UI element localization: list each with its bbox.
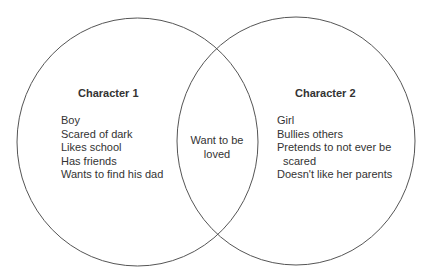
left-item: Wants to find his dad <box>61 168 163 182</box>
left-list: Boy Scared of dark Likes school Has frie… <box>61 114 163 182</box>
right-item: Girl <box>277 114 392 128</box>
right-item: Doesn't like her parents <box>277 168 392 182</box>
right-title: Character 2 <box>295 87 356 101</box>
left-item: Likes school <box>61 141 163 155</box>
overlap-text: Want to be loved <box>187 134 247 161</box>
left-item: Scared of dark <box>61 128 163 142</box>
left-item: Has friends <box>61 155 163 169</box>
right-item: Bullies others <box>277 128 392 142</box>
right-item: Pretends to not ever be <box>277 141 392 155</box>
left-item: Boy <box>61 114 163 128</box>
left-title: Character 1 <box>78 87 139 101</box>
right-item: scared <box>277 155 392 169</box>
right-list: Girl Bullies others Pretends to not ever… <box>277 114 392 182</box>
overlap-line: Want to be <box>187 134 247 148</box>
overlap-line: loved <box>187 148 247 162</box>
